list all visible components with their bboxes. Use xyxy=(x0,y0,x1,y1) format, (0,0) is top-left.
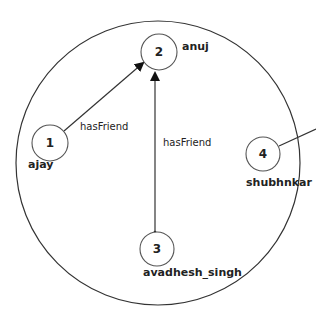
node-id: 2 xyxy=(155,45,163,59)
node-anuj[interactable]: 2 anuj xyxy=(141,34,209,70)
node-label: ajay xyxy=(28,158,53,171)
edge-label-1: hasFriend xyxy=(80,121,128,132)
node-id: 3 xyxy=(153,242,161,256)
node-ajay[interactable]: 1 ajay xyxy=(28,125,68,171)
node-shubhnkar[interactable]: 4 shubhnkar xyxy=(246,137,312,189)
node-label: shubhnkar xyxy=(246,176,312,189)
node-id: 4 xyxy=(259,147,267,161)
node-label: anuj xyxy=(182,40,209,53)
node-id: 1 xyxy=(46,136,54,150)
node-avadhesh-singh[interactable]: 3 avadhesh_singh xyxy=(140,232,242,279)
edge-shubhnkar-external xyxy=(279,129,316,146)
node-label: avadhesh_singh xyxy=(143,266,242,279)
edge-label-2: hasFriend xyxy=(163,137,211,148)
friend-graph-diagram: hasFriend hasFriend 1 ajay 2 anuj 3 avad… xyxy=(0,0,316,318)
